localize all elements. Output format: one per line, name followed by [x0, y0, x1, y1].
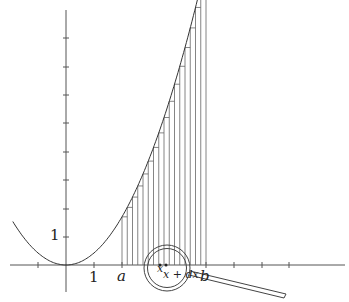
point-x-dx: [165, 264, 168, 267]
label-a: a: [117, 267, 126, 285]
label-x-plus-dx: x + dx: [163, 268, 199, 281]
parabola-curve: [13, 0, 233, 265]
riemann-strips: [122, 0, 206, 265]
integral-diagram: [0, 0, 349, 302]
x-tick-label-one: 1: [89, 268, 99, 286]
label-b: b: [200, 267, 210, 285]
y-tick-label-one: 1: [50, 226, 60, 244]
